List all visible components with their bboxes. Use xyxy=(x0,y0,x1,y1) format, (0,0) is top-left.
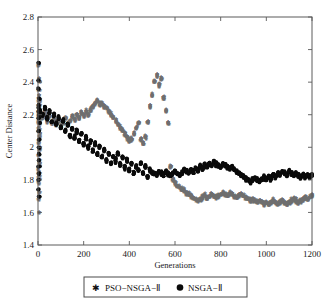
data-point xyxy=(103,148,107,152)
data-point: ✱ xyxy=(77,117,81,122)
data-point xyxy=(89,138,93,142)
data-point: ✱ xyxy=(164,110,168,115)
data-point xyxy=(127,170,131,174)
data-point xyxy=(125,159,129,163)
circle-icon xyxy=(177,284,184,291)
data-point xyxy=(64,129,68,133)
y-tick-label: 1.4 xyxy=(23,240,35,250)
data-point xyxy=(50,120,54,124)
figure-container: ✱✱✱✱✱✱✱✱✱✱✱✱✱✱✱✱✱✱✱✱✱✱✱✱✱✱✱✱✱✱✱✱✱✱✱✱✱✱✱✱… xyxy=(0,0,330,303)
data-point xyxy=(118,162,122,166)
data-point xyxy=(95,152,99,156)
center-distance-scatter-chart: ✱✱✱✱✱✱✱✱✱✱✱✱✱✱✱✱✱✱✱✱✱✱✱✱✱✱✱✱✱✱✱✱✱✱✱✱✱✱✱✱… xyxy=(0,0,330,303)
data-point xyxy=(141,172,145,176)
y-tick-label: 2.4 xyxy=(23,77,35,87)
data-point xyxy=(38,109,42,113)
data-point: ✱ xyxy=(143,135,147,140)
data-point xyxy=(210,165,214,169)
data-point: ✱ xyxy=(159,75,163,80)
data-point: ✱ xyxy=(37,181,41,186)
data-point xyxy=(105,159,109,163)
data-point xyxy=(57,117,61,121)
data-point: ✱ xyxy=(148,105,152,110)
data-point: ✱ xyxy=(132,132,136,137)
y-tick-label: 2.2 xyxy=(23,110,34,120)
data-point xyxy=(97,146,101,150)
data-point xyxy=(84,135,88,139)
x-tick-label: 800 xyxy=(214,249,228,259)
plot-area-background xyxy=(38,17,312,245)
data-point xyxy=(130,162,134,166)
data-point xyxy=(48,111,52,115)
data-point xyxy=(86,147,90,151)
data-point xyxy=(66,122,70,126)
data-point xyxy=(82,144,86,148)
data-point xyxy=(71,127,75,131)
data-point xyxy=(139,161,143,165)
data-point xyxy=(61,120,65,124)
data-point xyxy=(59,127,63,131)
data-point xyxy=(170,173,174,177)
data-point xyxy=(52,114,56,118)
x-tick-label: 400 xyxy=(123,249,137,259)
data-point xyxy=(73,137,77,141)
y-tick-label: 1.8 xyxy=(23,175,35,185)
chart-legend: ✱ PSO−NSGA−Ⅱ NSGA−Ⅱ xyxy=(84,277,247,297)
data-point xyxy=(79,132,83,136)
x-axis-title: Generations xyxy=(154,260,195,270)
data-point: ✱ xyxy=(150,93,154,98)
data-point xyxy=(191,171,195,175)
data-point xyxy=(135,163,139,167)
data-point xyxy=(146,174,150,178)
data-point: ✱ xyxy=(130,138,134,143)
data-point xyxy=(43,106,47,110)
data-point xyxy=(68,134,72,138)
data-point: ✱ xyxy=(161,97,165,102)
legend-label: PSO−NSGA−Ⅱ xyxy=(105,283,160,293)
data-point xyxy=(45,115,49,119)
data-point xyxy=(121,154,125,158)
data-point xyxy=(38,121,42,125)
y-tick-label: 2 xyxy=(30,142,35,152)
data-point xyxy=(123,165,127,169)
y-axis-title: Center Distance xyxy=(4,104,14,159)
x-tick-label: 0 xyxy=(36,249,41,259)
data-point xyxy=(75,129,79,133)
data-point xyxy=(93,141,97,145)
y-tick-label: 2.6 xyxy=(23,45,35,55)
x-tick-label: 1000 xyxy=(257,249,276,259)
data-point: ✱ xyxy=(141,142,145,147)
star-icon: ✱ xyxy=(92,283,100,293)
data-point xyxy=(137,167,141,171)
data-point xyxy=(109,161,113,165)
data-point xyxy=(143,164,147,168)
data-point xyxy=(37,158,41,162)
data-point: ✱ xyxy=(136,121,140,126)
data-point xyxy=(107,151,111,155)
data-point xyxy=(117,152,121,156)
data-point: ✱ xyxy=(166,121,170,126)
data-point xyxy=(91,149,95,153)
y-tick-label: 2.8 xyxy=(23,12,35,22)
data-point xyxy=(132,172,136,176)
data-point xyxy=(54,123,58,127)
x-tick-label: 600 xyxy=(168,249,182,259)
data-point: ✱ xyxy=(146,119,150,124)
data-point xyxy=(127,166,131,170)
x-tick-label: 200 xyxy=(77,249,91,259)
y-tick-label: 1.6 xyxy=(23,208,35,218)
x-tick-label: 1200 xyxy=(303,249,322,259)
data-point xyxy=(100,155,104,159)
data-point: ✱ xyxy=(168,164,172,169)
legend-label: NSGA−Ⅱ xyxy=(188,283,222,293)
data-point xyxy=(162,174,166,178)
data-point xyxy=(285,173,289,177)
data-point xyxy=(37,195,41,199)
data-point xyxy=(77,140,81,144)
